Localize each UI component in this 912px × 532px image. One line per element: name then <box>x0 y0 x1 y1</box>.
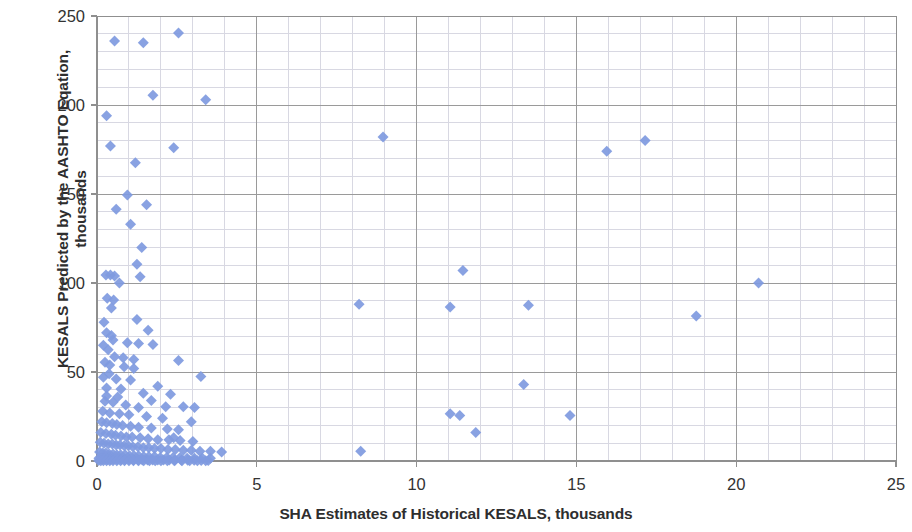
x-tick-label: 0 <box>92 475 101 494</box>
x-tick-label: 20 <box>727 475 745 494</box>
y-tick-label: 250 <box>31 7 85 26</box>
x-axis-title: SHA Estimates of Historical KESALS, thou… <box>0 505 912 523</box>
plot-background <box>97 16 896 461</box>
y-tick-label: 150 <box>31 185 85 204</box>
scatter-chart: KESALS Predicted by the AASHTO Eqation, … <box>0 0 912 532</box>
y-tick-label: 200 <box>31 96 85 115</box>
y-tick-label: 50 <box>31 363 85 382</box>
plot-area <box>0 0 912 532</box>
x-tick-label: 25 <box>887 475 905 494</box>
y-tick-label: 100 <box>31 274 85 293</box>
x-tick-label: 15 <box>567 475 585 494</box>
x-tick-label: 5 <box>252 475 261 494</box>
plot-canvas <box>0 0 912 532</box>
x-tick-label: 10 <box>407 475 425 494</box>
y-tick-label: 0 <box>31 452 85 471</box>
